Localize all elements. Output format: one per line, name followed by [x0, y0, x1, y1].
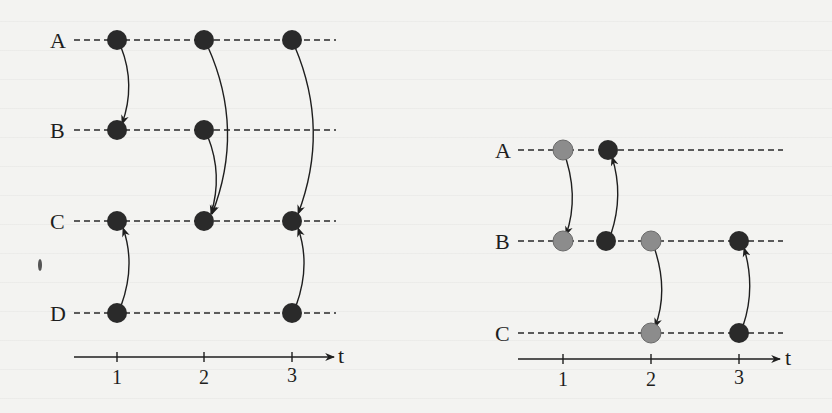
- edge-b2-c2: [654, 247, 662, 327]
- node-b1: [107, 120, 127, 140]
- node-a15-dark: [598, 140, 618, 160]
- node-b3-dark: [729, 231, 749, 251]
- node-c2-gray: [641, 323, 661, 343]
- left-time-axis: [74, 352, 334, 362]
- edge-d1-c1: [121, 228, 129, 306]
- row-label-c: C: [50, 209, 65, 234]
- node-b2-gray: [641, 231, 661, 251]
- node-b2: [194, 120, 214, 140]
- row-label-b: B: [50, 118, 65, 143]
- left-diagram: A B C D: [50, 28, 344, 388]
- edge-a1-b1: [121, 47, 129, 124]
- node-a1: [107, 30, 127, 50]
- row-label-b: B: [495, 229, 510, 254]
- right-time-axis: [518, 354, 780, 364]
- tick-label-2: 2: [646, 368, 656, 390]
- right-diagram: A B C t 1 2 3: [495, 138, 791, 390]
- node-b1-gray: [553, 231, 573, 251]
- node-c1: [107, 211, 127, 231]
- row-label-c: C: [495, 321, 510, 346]
- edge-a1-b1: [563, 150, 572, 235]
- node-c2: [194, 211, 214, 231]
- left-edges: [121, 47, 313, 306]
- row-label-a: A: [50, 28, 66, 53]
- tick-label-1: 1: [112, 366, 122, 388]
- timeline-diagrams: A B C D: [0, 0, 832, 413]
- node-b15-dark: [596, 231, 616, 251]
- node-c3-dark: [729, 323, 749, 343]
- node-a1-gray: [553, 140, 573, 160]
- edge-b2-c2: [208, 137, 216, 214]
- left-row-lines: [74, 40, 336, 313]
- node-d3: [282, 303, 302, 323]
- row-label-a: A: [495, 138, 511, 163]
- node-a3: [282, 30, 302, 50]
- edge-c3-b3: [743, 248, 750, 326]
- axis-label-t: t: [338, 343, 344, 368]
- row-label-d: D: [50, 301, 66, 326]
- edge-b15-a15: [611, 157, 618, 234]
- scan-speck: [38, 259, 42, 271]
- axis-label-t: t: [785, 345, 791, 370]
- tick-label-1: 1: [558, 368, 568, 390]
- node-c3: [282, 211, 302, 231]
- tick-label-3: 3: [734, 366, 744, 388]
- tick-label-2: 2: [199, 366, 209, 388]
- tick-label-3: 3: [287, 364, 297, 386]
- left-nodes: [107, 30, 302, 323]
- node-a2: [194, 30, 214, 50]
- edge-d3-c3: [296, 228, 304, 306]
- node-d1: [107, 303, 127, 323]
